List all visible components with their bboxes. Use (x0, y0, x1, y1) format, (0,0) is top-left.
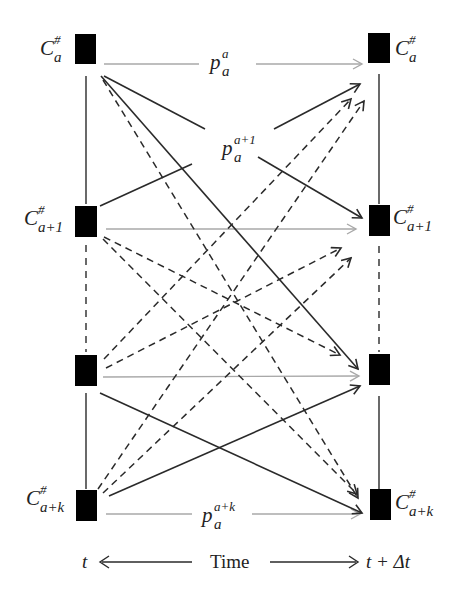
node-sub: a+k (40, 500, 64, 515)
left-node-label-ak: C#a+k (26, 488, 40, 509)
right-node-label-ak: C#a+k (395, 492, 409, 513)
node-sup: # (38, 203, 45, 216)
edge-sup: a+1 (234, 133, 256, 146)
right-node-a1 (369, 205, 390, 236)
right-node-a (368, 33, 390, 63)
edge-sub: a (222, 64, 230, 79)
left-node-mid (75, 355, 97, 386)
node-sup: # (409, 487, 416, 500)
node-sub: a (54, 50, 62, 65)
node-sup: # (40, 483, 47, 496)
edge-sup: a+k (214, 500, 235, 513)
node-sub: a+k (409, 504, 433, 519)
right-node-mid (369, 354, 390, 385)
left-node-a1 (75, 206, 97, 237)
edge-label-p-a-a: paa (210, 52, 221, 73)
node-sup: # (54, 33, 61, 46)
edge-base: p (210, 50, 221, 74)
node-base: C (395, 490, 409, 514)
right-node-label-a1: C#a+1 (393, 207, 407, 228)
persistence-edges (103, 64, 362, 514)
node-base: C (40, 36, 54, 60)
node-sub: a+1 (38, 220, 63, 235)
edge-sub: a (234, 150, 242, 165)
node-base: C (393, 205, 407, 229)
node-base: C (26, 486, 40, 510)
right-node-label-a: C#a (395, 38, 409, 59)
right-node-ak (370, 489, 391, 520)
node-sub: a+1 (407, 219, 432, 234)
left-node-a (75, 34, 96, 64)
edge-base: p (222, 136, 233, 160)
node-sub: a (409, 50, 417, 65)
left-node-label-a1: C#a+1 (24, 208, 38, 229)
left-node-ak (76, 490, 97, 521)
left-node-label-a: C#a (40, 38, 54, 59)
edge-sup: a (222, 47, 229, 60)
node-sup: # (407, 202, 414, 215)
edge-label-p-a-a1: pa+1a (222, 138, 233, 159)
edge-base: p (202, 503, 213, 527)
node-sup: # (409, 33, 416, 46)
time-start-label: t (82, 552, 87, 571)
edge-sub: a (214, 517, 222, 532)
time-end-label: t + Δt (366, 552, 410, 571)
node-base: C (395, 36, 409, 60)
time-axis-label: Time (210, 552, 249, 571)
edge-label-p-a-ak: pa+ka (202, 505, 213, 526)
node-base: C (24, 206, 38, 230)
